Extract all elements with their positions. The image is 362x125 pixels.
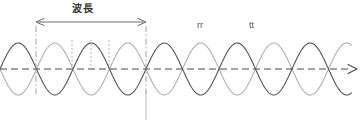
wavelength-label: 波長 — [72, 4, 93, 14]
axis-arrow-icon — [348, 65, 357, 74]
wave-diagram-figure: 波長 rr tt — [0, 0, 362, 125]
label-tt: tt — [249, 21, 254, 30]
wave-diagram-canvas — [0, 0, 362, 125]
vertical-guide-lines — [36, 26, 146, 95]
wavelength-dimension-line — [36, 19, 146, 26]
label-rr: rr — [197, 21, 203, 30]
